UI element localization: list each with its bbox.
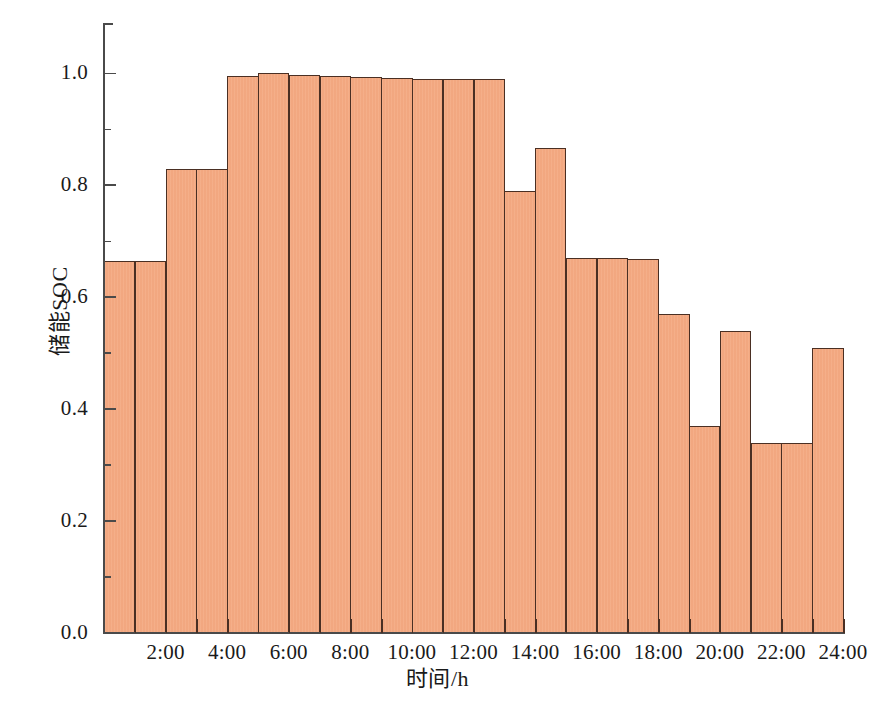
bar [504, 191, 535, 633]
bar [781, 443, 812, 633]
bar [443, 79, 474, 633]
x-tick-minor [504, 619, 506, 633]
x-tick-major [843, 619, 845, 633]
x-tick-minor [689, 619, 691, 633]
bar [196, 169, 227, 633]
x-axis-title: 时间/h [0, 666, 875, 692]
y-tick-label: 1.0 [28, 62, 88, 83]
bar [812, 348, 843, 633]
bar [320, 76, 351, 633]
bar [227, 76, 258, 633]
y-tick-major [104, 73, 116, 75]
y-tick-minor [104, 576, 111, 578]
x-tick-major [350, 619, 352, 633]
x-tick-minor [627, 619, 629, 633]
plot-area [104, 23, 843, 633]
y-tick-major [104, 520, 116, 522]
bars-layer [104, 23, 843, 633]
y-tick-minor [104, 129, 111, 131]
x-tick-minor [812, 619, 814, 633]
y-tick-minor [104, 464, 111, 466]
y-axis-title: 储能SOC [49, 211, 71, 411]
x-tick-major [658, 619, 660, 633]
bar [597, 258, 628, 633]
y-tick-label: 0.0 [28, 622, 88, 643]
x-tick-major [535, 619, 537, 633]
bar [535, 148, 566, 633]
bar [289, 75, 320, 634]
bar [350, 77, 381, 633]
bar [689, 426, 720, 633]
bar [412, 79, 443, 633]
bar [658, 314, 689, 633]
bar [166, 169, 197, 633]
y-tick-major [104, 296, 116, 298]
y-axis-top-cap [104, 23, 113, 25]
figure-container: 0.00.20.40.60.81.0 2:004:006:008:0010:00… [0, 0, 875, 716]
x-tick-label: 24:00 [798, 640, 875, 664]
x-tick-major [412, 619, 414, 633]
x-tick-major [289, 619, 291, 633]
y-tick-major [104, 184, 116, 186]
y-tick-minor [104, 352, 111, 354]
bar [720, 331, 751, 633]
y-tick-label: 0.2 [28, 510, 88, 531]
x-tick-major [720, 619, 722, 633]
bar [474, 79, 505, 633]
x-tick-major [474, 619, 476, 633]
x-tick-minor [566, 619, 568, 633]
y-tick-label: 0.8 [28, 174, 88, 195]
y-tick-major [104, 408, 116, 410]
x-tick-minor [258, 619, 260, 633]
bar [566, 258, 597, 633]
bar [381, 78, 412, 633]
x-tick-major [227, 619, 229, 633]
x-tick-minor [320, 619, 322, 633]
bar [627, 259, 658, 633]
x-tick-minor [196, 619, 198, 633]
bar [135, 261, 166, 633]
x-tick-major [781, 619, 783, 633]
y-tick-major [104, 632, 116, 634]
y-tick-minor [104, 241, 111, 243]
x-tick-major [166, 619, 168, 633]
bar [258, 73, 289, 633]
y-axis-line [103, 23, 105, 634]
x-tick-major [597, 619, 599, 633]
x-tick-minor [751, 619, 753, 633]
x-tick-minor [443, 619, 445, 633]
bar [751, 443, 782, 633]
x-tick-minor [381, 619, 383, 633]
x-tick-minor [135, 619, 137, 633]
